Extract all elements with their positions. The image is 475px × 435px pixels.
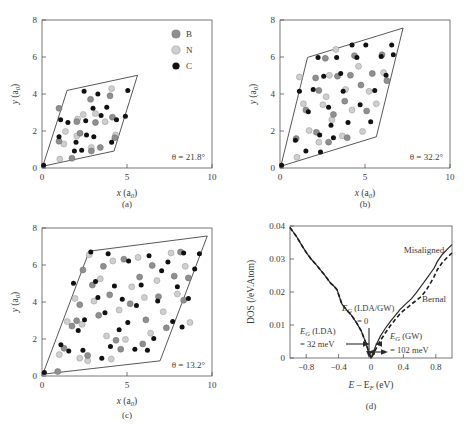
atom-b [97,144,103,150]
atom-c [74,140,79,145]
atom-n [329,117,335,123]
atom-c [326,105,331,110]
atom-c [41,163,46,168]
panel-d-xtick-04: 0.4 [398,362,410,372]
panel-c: 0 2 4 6 8 0 5 10 x (a0) y (a0) [0,208,237,435]
atom-c [112,283,117,288]
atom-c [297,89,302,94]
panel-d-plot: 0 0.01 0.02 0.03 0.04 −0.8 −0.4 0 0.4 [246,221,452,391]
panel-b-ytick-2: 2 [271,126,276,136]
atom-b [74,318,80,324]
panel-d-xtick-0: 0 [369,362,374,372]
atom-c [66,349,71,354]
atom-b [118,346,124,352]
atom-b [358,82,364,88]
panel-b-ytick-6: 6 [271,52,276,62]
panel-d-label: (d) [366,401,377,411]
atom-c [368,119,373,124]
panel-d-ytick-003: 0.03 [269,254,285,264]
arrow-head-gw-right [381,349,388,355]
panel-c-xtick-10: 10 [208,380,218,390]
panel-a-frame [42,20,212,168]
atom-c [99,356,104,361]
atom-n [62,128,68,134]
panel-a-ytick-6: 6 [33,52,38,62]
panel-c-ytick-6: 6 [33,260,38,270]
panel-d-ytick-001: 0.01 [269,320,285,330]
atom-c [95,295,100,300]
panel-b-xtick-5: 5 [363,172,368,182]
atom-c [175,284,180,289]
atom-c [91,134,96,139]
atom-c [147,253,152,258]
panel-d-xtick-08: 0.8 [430,362,442,372]
atom-c [71,281,76,286]
panel-c-xtick-0: 0 [40,380,45,390]
panel-d-xlabel: E – EF (eV) [348,380,394,391]
panel-d-xtick-neg08: −0.8 [298,362,315,372]
atom-c [151,336,156,341]
legend-marker-n [172,46,180,54]
atom-c [316,55,321,60]
annotation-lda-line2: = 32 meV [300,339,335,349]
panel-a-ytick-2: 2 [33,126,38,136]
atom-c [102,310,107,315]
atom-c [125,88,130,93]
panel-b-plot: 0 2 4 6 8 0 5 10 x (a0) y (a0) [248,15,455,199]
panel-a-xtick-5: 5 [125,172,130,182]
atom-b [313,75,319,81]
atom-b [107,93,113,99]
atom-n [316,139,322,145]
atom-c [134,303,139,308]
atom-c [79,148,84,153]
panel-d: 0 0.01 0.02 0.03 0.04 −0.8 −0.4 0 0.4 [238,208,475,435]
atom-n [102,119,108,125]
atom-c [82,89,87,94]
panel-a-y-axis: 0 2 4 6 8 [33,15,47,173]
atom-b [140,341,146,347]
atom-c [108,344,113,349]
annotation-gw-line1: EG (GW) [389,331,422,342]
atom-b [113,337,119,343]
atom-b [56,105,62,111]
atom-c [350,42,355,47]
atom-c [57,134,62,139]
atom-c [120,297,125,302]
annotation-lda-line1: EG (LDA) [299,326,336,337]
panel-a: 0 2 4 6 8 0 5 10 x (a0) y (a0) [0,0,237,210]
atom-c [145,348,150,353]
panel-b-theta: θ = 32.2° [410,152,444,162]
atom-c [363,42,368,47]
panel-c-ytick-4: 4 [33,297,38,307]
legend-label-b: B [186,29,192,39]
atom-c [82,317,87,322]
atom-n [56,352,62,358]
atom-n [108,356,114,362]
curve-label-misaligned: Misaligned [404,245,445,255]
atom-n [122,336,128,342]
panel-c-label: (c) [122,410,132,420]
atom-n [72,295,78,301]
panel-d-ytick-0: 0 [281,353,286,363]
atom-c [76,328,81,333]
atom-c [389,42,394,47]
panel-b-ytick-4: 4 [271,89,276,99]
panel-c-x-axis: 0 5 10 [40,372,217,390]
panel-c-xtick-5: 5 [125,380,130,390]
atom-b [347,72,353,78]
panel-d-xtick-neg04: −0.4 [330,362,347,372]
atom-c [303,149,308,154]
atom-n [92,111,98,117]
atom-n [296,74,302,80]
panel-a-xtick-10: 10 [208,172,218,182]
atom-b [121,256,127,262]
panel-c-ytick-8: 8 [33,223,38,233]
atom-c [334,55,339,60]
atom-c [109,140,114,145]
atom-n [300,101,306,107]
atom-n [360,128,366,134]
atom-c [84,133,89,138]
panel-a-legend: B N C [172,29,193,71]
atom-n [323,94,329,100]
annotation-ldagw-line1: EG (LDA/GW) [341,303,394,314]
